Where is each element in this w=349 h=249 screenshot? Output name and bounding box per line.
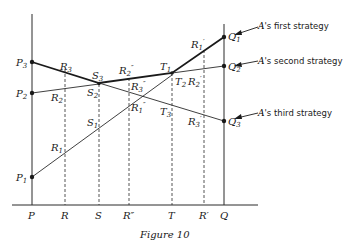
figure-10-diagram: P3 P2 P1 Q1 Q2 Q3 R3 R2 R1 S3 S2 S1 R2″ …: [0, 0, 349, 249]
axis-label-P: P: [27, 210, 35, 221]
label-R3-double-prime: R3″: [130, 80, 146, 94]
axis-label-R: R: [60, 210, 69, 221]
label-R1: R1: [50, 142, 63, 155]
axis-label-R-double-prime: R″: [122, 210, 135, 221]
point-P2: [30, 91, 34, 95]
label-R2: R2: [50, 92, 64, 105]
label-R3-prime: R3′: [187, 115, 202, 129]
label-S2: S2: [87, 87, 99, 100]
annotation-second-strategy: A's second strategy: [257, 56, 342, 66]
axis-label-Q: Q: [220, 210, 228, 221]
label-Q2: Q2: [228, 61, 241, 74]
axis-label-T: T: [168, 210, 176, 221]
point-Q1: [222, 35, 226, 39]
label-T1: T1: [160, 61, 171, 74]
label-P2: P2: [15, 88, 28, 101]
point-P3: [30, 60, 34, 64]
axis-label-S: S: [95, 210, 102, 221]
label-R1-prime: R1′: [190, 38, 205, 52]
label-T2: T2: [175, 76, 187, 89]
label-P1: P1: [15, 172, 27, 185]
point-P1: [30, 175, 34, 179]
annotation-first-strategy: A's first strategy: [257, 21, 329, 31]
point-Q3: [222, 119, 226, 123]
label-T3: T3: [160, 106, 172, 119]
label-R2-double-prime: R2″: [118, 64, 134, 78]
label-P3: P3: [15, 57, 28, 70]
label-R1-double-prime: R1″: [130, 101, 146, 115]
arrow-icon-first-strategy: [234, 27, 258, 35]
axis-label-R-prime: R′: [198, 210, 210, 221]
annotation-third-strategy: A's third strategy: [257, 108, 332, 118]
label-R2-prime: R2′: [187, 75, 202, 89]
point-Q2: [222, 64, 226, 68]
arrow-icon-third-strategy: [234, 113, 258, 119]
arrow-icon-second-strategy: [234, 61, 258, 67]
label-S1: S1: [87, 117, 98, 130]
figure-caption: Figure 10: [139, 229, 190, 240]
